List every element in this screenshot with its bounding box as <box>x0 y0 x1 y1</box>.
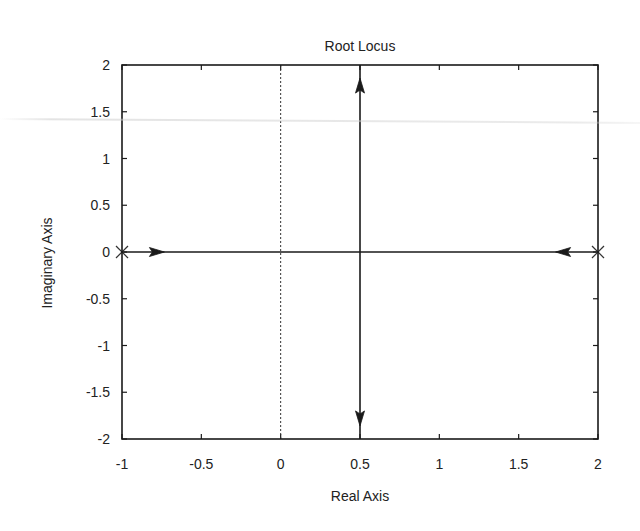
y-tick-label: -0.5 <box>86 291 110 307</box>
x-tick-label: -0.5 <box>189 456 213 472</box>
y-tick-label: 2 <box>102 57 110 73</box>
y-tick-label: -1.5 <box>86 384 110 400</box>
locus-branches <box>122 65 598 439</box>
x-tick-label: 1 <box>435 456 443 472</box>
y-tick-label: -1 <box>98 338 111 354</box>
y-tick-label: 0.5 <box>91 197 111 213</box>
x-tick-label: 2 <box>594 456 602 472</box>
y-tick-label: 1.5 <box>91 104 111 120</box>
root-locus-figure: Root Locus Real Axis Imaginary Axis -1-0… <box>0 0 640 531</box>
x-axis-label: Real Axis <box>331 488 389 504</box>
y-tick-label: -2 <box>98 431 111 447</box>
x-tick-labels: -1-0.500.511.52 <box>116 456 602 472</box>
y-tick-label: 1 <box>102 151 110 167</box>
x-tick-label: 0 <box>277 456 285 472</box>
root-locus-plot: Root Locus Real Axis Imaginary Axis -1-0… <box>0 0 640 531</box>
y-axis-label: Imaginary Axis <box>39 217 55 308</box>
chart-title: Root Locus <box>325 38 396 54</box>
y-tick-label: 0 <box>102 244 110 260</box>
x-tick-label: 1.5 <box>509 456 529 472</box>
x-tick-label: 0.5 <box>350 456 370 472</box>
y-tick-labels: 21.510.50-0.5-1-1.5-2 <box>86 57 110 447</box>
x-tick-label: -1 <box>116 456 129 472</box>
